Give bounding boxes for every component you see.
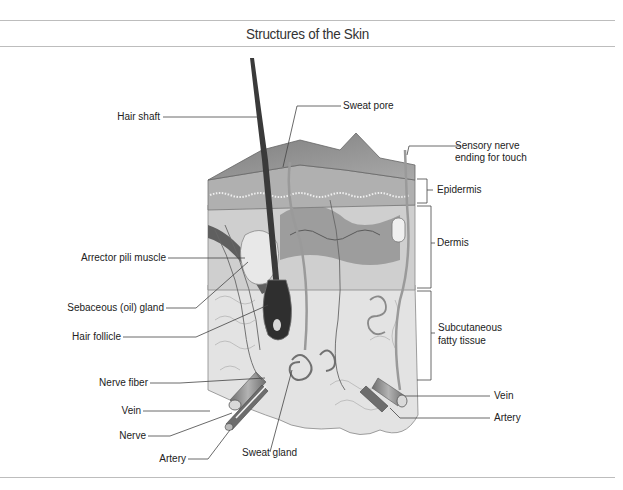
vein-right-opening (397, 395, 407, 407)
vein-left-opening (229, 400, 241, 410)
artery-left-opening (225, 424, 233, 431)
label-hair-shaft: Hair shaft (100, 111, 160, 123)
label-nerve-fiber: Nerve fiber (40, 377, 148, 389)
label-epidermis: Epidermis (437, 184, 481, 196)
touch-receptor (392, 218, 405, 242)
label-artery-left: Artery (40, 453, 186, 465)
bottom-rule (0, 477, 615, 478)
label-arrector-pili-muscle: Arrector pili muscle (40, 252, 166, 264)
label-hair-follicle: Hair follicle (40, 331, 121, 343)
label-sensory-nerve-line2: ending for touch (455, 152, 527, 164)
label-subcutaneous-line2: fatty tissue (438, 335, 486, 347)
label-subcutaneous-line1: Subcutaneous (438, 322, 502, 334)
hair-bulb (273, 319, 281, 331)
label-nerve: Nerve (40, 430, 146, 442)
hair-follicle (263, 280, 292, 340)
label-dermis: Dermis (437, 237, 469, 249)
label-artery-right: Artery (494, 412, 521, 424)
label-sensory-nerve-line1: Sensory nerve (455, 140, 519, 152)
label-sweat-pore: Sweat pore (343, 100, 394, 112)
label-vein-left: Vein (40, 405, 141, 417)
label-sweat-gland: Sweat gland (242, 447, 297, 459)
label-vein-right: Vein (494, 390, 513, 402)
label-sebaceous-gland: Sebaceous (oil) gland (40, 302, 164, 314)
